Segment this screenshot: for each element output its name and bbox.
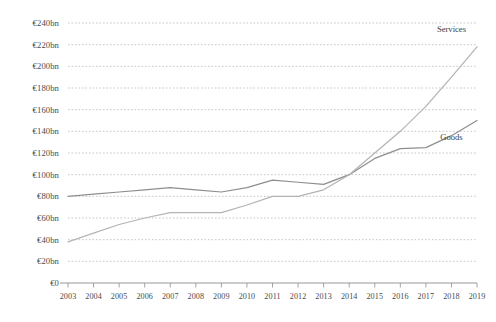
x-axis-tick-label: 2003 — [60, 292, 77, 301]
y-axis-tick-label: €20bn — [37, 256, 60, 266]
y-axis-tick-label: €100bn — [33, 170, 60, 180]
series-labels-group: GoodsServices — [437, 24, 467, 142]
x-axis-tick-label: 2007 — [162, 292, 179, 301]
x-axis-group — [60, 283, 477, 288]
x-axis-tick-label: 2006 — [136, 292, 153, 301]
series-label-services: Services — [437, 24, 467, 34]
y-axis-tick-label: €200bn — [33, 61, 60, 71]
x-axis-tick-label: 2005 — [111, 292, 128, 301]
series-label-goods: Goods — [440, 132, 463, 142]
gridlines-group — [68, 23, 477, 261]
x-axis-tick-label: 2018 — [443, 292, 460, 301]
y-axis-tick-label: €80bn — [37, 191, 60, 201]
x-axis-tick-label: 2010 — [239, 292, 256, 301]
y-axis-tick-label: €60bn — [37, 213, 60, 223]
y-axis-tick-label: €40bn — [37, 235, 60, 245]
y-axis-labels-group: €0€20bn€40bn€60bn€80bn€100bn€120bn€140bn… — [33, 18, 60, 288]
x-axis-tick-label: 2016 — [392, 292, 409, 301]
x-axis-tick-label: 2012 — [290, 292, 307, 301]
series-group — [68, 47, 477, 242]
line-chart: €0€20bn€40bn€60bn€80bn€100bn€120bn€140bn… — [0, 0, 496, 322]
y-axis-tick-label: €240bn — [33, 18, 60, 28]
series-line-goods — [68, 121, 477, 197]
y-axis-tick-label: €140bn — [33, 126, 60, 136]
y-axis-tick-label: €160bn — [33, 105, 60, 115]
x-axis-tick-label: 2008 — [188, 292, 205, 301]
x-axis-tick-label: 2004 — [85, 292, 102, 301]
y-axis-tick-label: €0 — [50, 278, 59, 288]
y-axis-tick-label: €120bn — [33, 148, 60, 158]
x-axis-tick-label: 2019 — [469, 292, 486, 301]
chart-canvas: €0€20bn€40bn€60bn€80bn€100bn€120bn€140bn… — [0, 0, 496, 322]
x-axis-tick-label: 2009 — [213, 292, 230, 301]
x-axis-tick-label: 2017 — [418, 292, 435, 301]
x-axis-labels-group: 2003200420052006200720082009201020112012… — [60, 292, 486, 301]
x-axis-tick-label: 2013 — [315, 292, 332, 301]
y-axis-tick-label: €220bn — [33, 40, 60, 50]
x-axis-tick-label: 2011 — [264, 292, 280, 301]
series-line-services — [68, 47, 477, 242]
x-axis-tick-label: 2014 — [341, 292, 358, 301]
y-axis-tick-label: €180bn — [33, 83, 60, 93]
x-axis-tick-label: 2015 — [366, 292, 383, 301]
